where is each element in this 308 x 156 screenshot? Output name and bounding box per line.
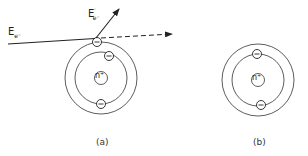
diagram-canvas bbox=[0, 0, 308, 156]
nucleus-label-a: n⁺ bbox=[95, 71, 104, 80]
electron-subscript: e⁻ bbox=[14, 32, 21, 39]
electron-icon bbox=[97, 100, 106, 109]
nucleus-label-b: n⁺ bbox=[252, 73, 261, 82]
caption-a: (a) bbox=[96, 137, 109, 147]
electron-icon bbox=[253, 50, 262, 59]
undeflected-path-dashed bbox=[101, 34, 172, 38]
incident-electron-path bbox=[8, 39, 95, 45]
electron-icon bbox=[105, 52, 114, 61]
scattered-energy-label: E′e⁻ bbox=[88, 7, 100, 21]
incident-energy-label: Ee⁻ bbox=[8, 26, 21, 39]
prime-mark: ′ bbox=[94, 7, 95, 14]
electron-icon bbox=[257, 101, 266, 110]
electron-subscript: e⁻ bbox=[93, 14, 100, 21]
caption-b: (b) bbox=[253, 137, 266, 147]
